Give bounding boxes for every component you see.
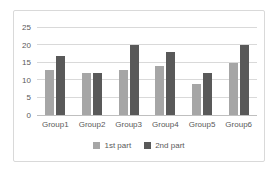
bar-1st-part [82,73,91,115]
bar-1st-part [155,66,164,115]
x-tick-label: Group4 [147,120,184,130]
legend-swatch-icon [93,142,100,149]
chart-canvas: 0510152025 Group1Group2Group3Group4Group… [0,0,278,171]
y-tick-label: 20 [22,42,31,50]
bar-1st-part [229,63,238,115]
bar-2nd-part [203,73,212,115]
y-tick-label: 25 [22,24,31,32]
legend: 1st part2nd part [14,141,264,150]
bar-groups [37,28,257,115]
bar-group [74,28,111,115]
plot-area [37,28,257,116]
legend-item: 1st part [93,141,131,150]
y-tick-label: 10 [22,77,31,85]
y-tick-label: 15 [22,59,31,67]
x-axis-labels: Group1Group2Group3Group4Group5Group6 [37,120,257,130]
bar-2nd-part [240,45,249,115]
x-tick-label: Group3 [110,120,147,130]
bar-group [110,28,147,115]
bar-1st-part [192,84,201,115]
bar-2nd-part [56,56,65,115]
legend-swatch-icon [144,142,151,149]
chart-frame: 0510152025 Group1Group2Group3Group4Group… [13,10,265,162]
y-tick-label: 5 [27,94,31,102]
bar-1st-part [119,70,128,115]
y-tick-label: 0 [27,112,31,120]
bar-2nd-part [166,52,175,115]
bar-2nd-part [130,45,139,115]
bar-group [220,28,257,115]
legend-label: 1st part [104,141,131,150]
x-tick-label: Group6 [220,120,257,130]
plot-wrap: 0510152025 [37,28,257,116]
legend-label: 2nd part [155,141,184,150]
bar-group [37,28,74,115]
bar-1st-part [45,70,54,115]
x-tick-label: Group2 [74,120,111,130]
bar-2nd-part [93,73,102,115]
x-tick-label: Group1 [37,120,74,130]
x-tick-label: Group5 [184,120,221,130]
legend-item: 2nd part [144,141,184,150]
bar-group [184,28,221,115]
bar-group [147,28,184,115]
